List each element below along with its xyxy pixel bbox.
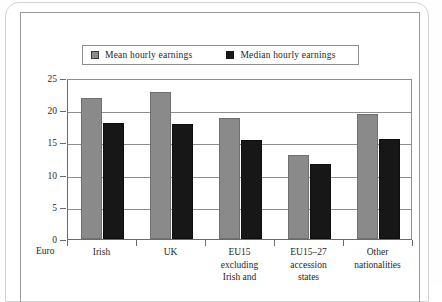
- bar-median: [310, 164, 331, 239]
- legend-entry-mean: Mean hourly earnings: [91, 50, 192, 60]
- y-axis-tick: [60, 143, 66, 144]
- bar-median: [172, 124, 193, 239]
- x-axis-tick: [412, 240, 413, 246]
- bar-mean: [288, 155, 309, 239]
- category-label-line: Other: [343, 246, 412, 259]
- y-axis-tick-label: 5: [52, 203, 57, 213]
- category-label: Othernationalities: [343, 246, 412, 271]
- category-label-line: excluding: [205, 259, 274, 272]
- category-label-line: EU15–27: [274, 246, 343, 259]
- category-label: UK: [136, 246, 205, 259]
- bar-mean: [150, 92, 171, 239]
- y-axis-tick-label: 25: [48, 74, 58, 84]
- bar-median: [379, 139, 400, 239]
- category-label: EU15–27accessionstates: [274, 246, 343, 284]
- bar-mean: [357, 114, 378, 239]
- category-label-line: Irish and: [205, 271, 274, 284]
- bar-group: [81, 80, 124, 239]
- bar-group: [219, 80, 262, 239]
- category-label-line: states: [274, 271, 343, 284]
- legend-swatch-mean-icon: [91, 51, 99, 59]
- plot-wrapper: [67, 79, 412, 240]
- bar-median: [103, 123, 124, 239]
- legend-entry-median: Median hourly earnings: [226, 50, 335, 60]
- category-label-line: UK: [136, 246, 205, 259]
- y-axis-tick-label: 15: [48, 138, 58, 148]
- x-axis-category-labels: IrishUKEU15excludingIrish andEU15–27acce…: [67, 246, 412, 285]
- category-label-line: nationalities: [343, 259, 412, 272]
- legend-label-mean: Mean hourly earnings: [105, 50, 192, 60]
- category-label-line: Irish: [67, 246, 136, 259]
- y-axis-tick-label: 0: [52, 235, 57, 245]
- y-axis-tick-label: 20: [48, 106, 58, 116]
- axis-unit-label: Euro: [36, 246, 54, 256]
- bar-median: [241, 140, 262, 239]
- chart-legend: Mean hourly earnings Median hourly earni…: [82, 45, 359, 65]
- y-axis: 0510152025: [0, 79, 66, 240]
- plot-area: [67, 79, 412, 240]
- y-axis-tick: [60, 111, 66, 112]
- legend-label-median: Median hourly earnings: [240, 50, 335, 60]
- y-axis-tick-label: 10: [48, 171, 58, 181]
- category-label: EU15excludingIrish and: [205, 246, 274, 284]
- y-axis-tick: [60, 208, 66, 209]
- y-axis-tick: [60, 240, 66, 241]
- bar-group: [357, 80, 400, 239]
- legend-swatch-median-icon: [226, 51, 234, 59]
- bar-group: [288, 80, 331, 239]
- bar-mean: [219, 118, 240, 239]
- category-label: Irish: [67, 246, 136, 259]
- bar-mean: [81, 98, 102, 239]
- bar-group: [150, 80, 193, 239]
- y-axis-tick: [60, 79, 66, 80]
- y-axis-tick: [60, 176, 66, 177]
- category-label-line: EU15: [205, 246, 274, 259]
- category-label-line: accession: [274, 259, 343, 272]
